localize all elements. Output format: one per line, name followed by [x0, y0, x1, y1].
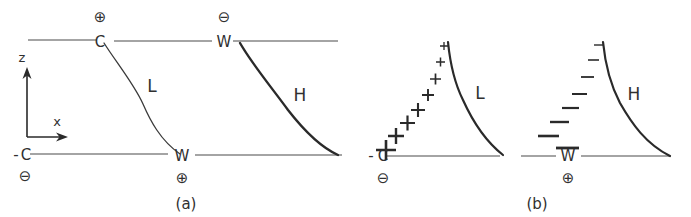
- panel-a-axis-indicator: [23, 67, 69, 142]
- plus-sign: [388, 128, 404, 144]
- panel-a-lower-left-charge: ⊖: [19, 167, 32, 185]
- panel-a-z-axis-label: z: [19, 50, 26, 65]
- panel-a-lower-right-charge: ⊕: [176, 169, 189, 187]
- negative-charge-stack: [538, 45, 603, 148]
- panel-b: [376, 42, 670, 160]
- panel-b-curve-label-L: L: [475, 83, 485, 103]
- panel-a-upper-boundary: [28, 40, 338, 41]
- panel-b-caption: (b): [526, 195, 547, 213]
- plus-sign: [400, 116, 415, 131]
- panel-b-left-prefix: -: [368, 147, 373, 165]
- panel-a-x-axis-label: x: [53, 114, 61, 129]
- panel-b-left-charge-below: ⊖: [377, 169, 390, 187]
- panel-b-left-label: C: [378, 147, 388, 165]
- panel-a-caption: (a): [176, 195, 197, 213]
- plus-sign: [430, 74, 441, 85]
- panel-a-curve-label-H: H: [294, 85, 307, 105]
- panel-a-lower-left-label: C: [21, 146, 31, 164]
- figure-canvas: C ⊕ W ⊖ - C ⊖ W ⊕ L H z x (a) - C ⊖ W ⊕ …: [0, 0, 691, 217]
- figure-root: C ⊕ W ⊖ - C ⊖ W ⊕ L H z x (a) - C ⊖ W ⊕ …: [0, 0, 691, 217]
- plus-sign: [436, 58, 445, 67]
- panel-a-lower-right-label: W: [175, 147, 190, 165]
- positive-charge-stack: [376, 42, 448, 160]
- plus-sign: [411, 103, 425, 117]
- panel-a-curve-label-L: L: [147, 76, 157, 96]
- plus-sign: [440, 42, 448, 50]
- plus-sign: [422, 89, 434, 101]
- panel-b-curve-label-H: H: [628, 84, 641, 104]
- panel-a-curve-L: [104, 43, 180, 154]
- panel-b-right-charge-below: ⊕: [562, 169, 575, 187]
- panel-a-curve-H: [240, 43, 338, 155]
- panel-a-upper-left-charge: ⊕: [94, 8, 107, 26]
- panel-a-upper-right-label: W: [217, 33, 232, 51]
- panel-a-upper-right-charge: ⊖: [218, 8, 231, 26]
- panel-b-right-label: W: [561, 147, 576, 165]
- panel-a-lower-left-prefix: -: [13, 146, 18, 164]
- panel-a-upper-left-label: C: [95, 33, 105, 51]
